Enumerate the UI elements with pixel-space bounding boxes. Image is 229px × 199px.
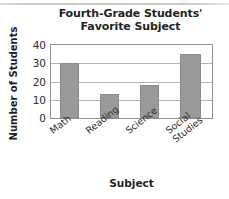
bar-chart-figure: Fourth-Grade Students' Favorite Subject … <box>0 0 229 199</box>
x-axis-title: Subject <box>50 177 213 189</box>
y-axis-title: Number of Students <box>8 24 19 144</box>
bar-math <box>60 63 79 118</box>
y-tick-label-30: 30 <box>20 58 46 68</box>
y-tick-label-20: 20 <box>20 77 46 87</box>
y-tick-label-10: 10 <box>20 95 46 105</box>
bar-series <box>51 45 212 118</box>
y-tick-label-40: 40 <box>20 40 46 50</box>
top-divider <box>0 3 229 5</box>
y-tick-label-0: 0 <box>20 113 46 123</box>
chart-title-line-1: Fourth-Grade Students' <box>59 7 203 20</box>
chart-title-line-2: Favorite Subject <box>38 21 223 34</box>
chart-title: Fourth-Grade Students' Favorite Subject <box>38 8 223 33</box>
